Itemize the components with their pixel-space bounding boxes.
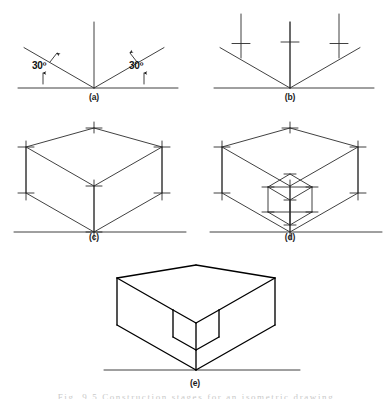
panel-e-top-back-right-edge	[196, 265, 275, 278]
panel-c-top-back-left-edge	[26, 128, 94, 147]
angle-label-left: 30º	[32, 60, 46, 71]
panel-e-top-front-left-edge	[117, 278, 173, 310]
panel-e-finished-solid	[104, 265, 300, 370]
panel-e-notch-top-left-edge	[173, 310, 196, 323]
panel-d-notch-top-front-left-edge	[268, 187, 290, 200]
panel-d-bottom-left-edge	[222, 193, 290, 232]
panel-caption-b: (b)	[285, 92, 296, 102]
panel-e-notch-top-right-edge	[196, 310, 219, 323]
panel-c-bottom-right-edge	[94, 193, 162, 232]
panel-e-top-front-right-edge	[219, 278, 275, 310]
panel-d-notch-bottom-right-edge	[290, 212, 312, 225]
isometric-construction-figure: 30º 30º (a) (b) (c) (d) (e) Fig. 9.5 Con…	[0, 0, 392, 399]
panel-c-box	[14, 122, 186, 240]
panel-d-top-back-right-edge	[290, 128, 358, 147]
panel-e-bottom-right-edge	[196, 325, 275, 370]
panel-caption-d: (d)	[285, 232, 296, 242]
panel-e-notch-floor-right-edge	[196, 337, 219, 350]
angle-label-right: 30º	[129, 60, 143, 71]
panel-c-top-back-right-edge	[94, 128, 162, 147]
panel-d-bottom-right-edge	[290, 193, 358, 232]
panel-a-axes	[18, 22, 178, 88]
figure-drawing-canvas	[0, 0, 392, 399]
panel-e-notch-floor-left-edge	[173, 337, 196, 350]
panel-b-right-axis	[290, 48, 360, 88]
panel-d-notch-top-front-right-edge	[290, 187, 312, 200]
panel-d-notch-top-right-edge	[290, 174, 312, 187]
panel-d-notch-bottom-left-edge	[268, 212, 290, 225]
panel-c-bottom-left-edge	[26, 193, 94, 232]
panel-c-top-front-right-edge	[94, 147, 162, 186]
panel-b-left-axis	[220, 48, 290, 88]
panel-d-top-back-left-edge	[222, 128, 290, 147]
panel-e-bottom-left-edge	[117, 325, 196, 370]
panel-c-top-front-left-edge	[26, 147, 94, 186]
panel-b-measurements	[214, 14, 374, 88]
panel-caption-c: (c)	[89, 232, 99, 242]
clipped-bottom-caption: Fig. 9.5 Construction stages for an isom…	[0, 392, 392, 399]
panel-e-top-back-left-edge	[117, 265, 196, 278]
panel-caption-e: (e)	[190, 378, 200, 388]
panel-caption-a: (a)	[89, 92, 99, 102]
panel-a-left-angle-arrow-upper	[50, 53, 57, 62]
panel-d-notch-top-left-edge	[268, 174, 290, 187]
panel-d-notch-layout	[210, 122, 382, 240]
